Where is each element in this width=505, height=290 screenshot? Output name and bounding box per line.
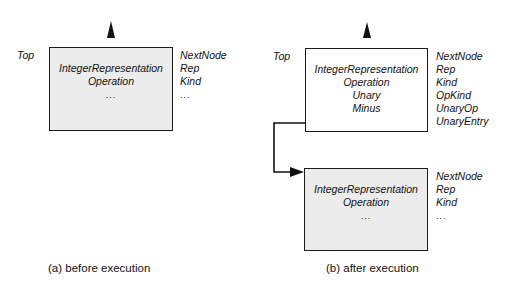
top-label-b: Top	[273, 50, 290, 63]
caption-b: (b) after execution	[326, 262, 419, 274]
slot-label-ellipsis: ...	[436, 210, 447, 223]
node-field: IntegerRepresentation	[50, 62, 172, 75]
slot-label: Rep	[436, 63, 455, 76]
slot-label: UnaryOp	[436, 102, 478, 115]
slot-label: Rep	[436, 183, 455, 196]
slot-label: NextNode	[436, 170, 483, 183]
node-field: IntegerRepresentation	[306, 63, 427, 76]
slot-label: UnaryEntry	[436, 115, 489, 128]
connector-layer	[0, 0, 505, 290]
slot-label-ellipsis: ...	[180, 89, 191, 102]
node-box-a: IntegerRepresentation Operation ...	[49, 47, 173, 131]
slot-label: Rep	[180, 62, 199, 75]
slot-label: NextNode	[436, 50, 483, 63]
new-node-box: IntegerRepresentation Operation Unary Mi…	[305, 48, 428, 132]
node-field: Minus	[306, 102, 427, 115]
node-field-ellipsis: ...	[305, 210, 427, 223]
node-field: Operation	[306, 76, 427, 89]
node-field: IntegerRepresentation	[305, 183, 427, 196]
caption-a: (a) before execution	[48, 262, 150, 274]
slot-label: Kind	[436, 196, 457, 209]
top-label-a: Top	[17, 49, 34, 62]
slot-label: NextNode	[180, 49, 227, 62]
old-node-box: IntegerRepresentation Operation ...	[304, 168, 428, 251]
node-field: Unary	[306, 89, 427, 102]
node-field-ellipsis: ...	[50, 89, 172, 102]
slot-label: OpKind	[436, 89, 471, 102]
node-field: Operation	[305, 196, 427, 209]
slot-label: Kind	[436, 76, 457, 89]
slot-label: Kind	[180, 75, 201, 88]
node-field: Operation	[50, 75, 172, 88]
